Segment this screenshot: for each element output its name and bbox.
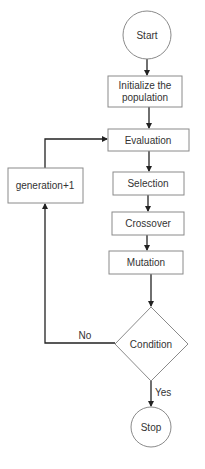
init-label-line1: Initialize the (119, 80, 172, 91)
edge-condition-generation (45, 204, 115, 343)
edge-generation-evaluation (45, 139, 107, 168)
condition-node: Condition (115, 307, 188, 381)
start-node: Start (123, 11, 171, 59)
generation-label: generation+1 (16, 180, 75, 191)
evaluation-node: Evaluation (108, 129, 189, 151)
selection-node: Selection (113, 172, 184, 195)
init-label-line2: population (122, 92, 168, 103)
crossover-label: Crossover (125, 218, 171, 229)
selection-label: Selection (127, 178, 168, 189)
yes-label: Yes (155, 387, 171, 398)
stop-node: Stop (131, 407, 171, 447)
crossover-node: Crossover (112, 212, 184, 235)
evaluation-label: Evaluation (125, 135, 172, 146)
generation-node: generation+1 (8, 168, 83, 203)
init-node: Initialize the population (108, 76, 182, 107)
condition-label: Condition (130, 339, 172, 350)
stop-label: Stop (141, 422, 162, 433)
mutation-label: Mutation (127, 257, 165, 268)
start-label: Start (136, 30, 157, 41)
mutation-node: Mutation (109, 251, 183, 274)
flowchart: Start Initialize the population Evaluati… (0, 0, 205, 469)
no-label: No (79, 330, 92, 341)
